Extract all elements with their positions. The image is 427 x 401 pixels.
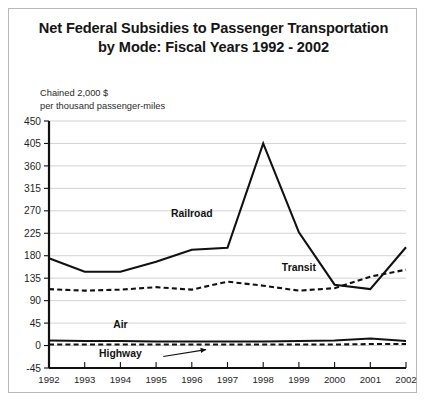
chart-frame: Net Federal Subsidies to Passenger Trans… — [8, 8, 417, 393]
series-label-railroad: Railroad — [171, 208, 213, 219]
series-label-highway: Highway — [99, 348, 142, 359]
x-axis-tick-label: 1994 — [110, 374, 132, 385]
x-axis-tick-label: 1993 — [74, 374, 95, 385]
y-axis-tick-label: 405 — [24, 138, 41, 149]
x-axis-tick-label: 1999 — [288, 374, 309, 385]
highway-arrow — [163, 350, 206, 357]
series-line-highway — [49, 344, 406, 345]
x-axis-tick-label: 1996 — [181, 374, 202, 385]
y-axis-tick-label: 450 — [24, 116, 41, 127]
line-chart-svg: 45040536031527022518013590450-4519921993… — [9, 9, 418, 394]
y-axis-tick-label: 180 — [24, 250, 41, 261]
y-axis-tick-label: 225 — [24, 228, 41, 239]
x-axis-tick-label: 1992 — [38, 374, 59, 385]
series-label-air: Air — [113, 319, 127, 330]
y-axis-tick-label: 135 — [24, 273, 41, 284]
y-axis-tick-label: 90 — [30, 295, 42, 306]
series-line-railroad — [49, 143, 406, 289]
x-axis-tick-label: 2000 — [324, 374, 345, 385]
y-axis-tick-label: -45 — [26, 363, 41, 374]
y-axis-tick-label: 0 — [35, 340, 41, 351]
series-line-air — [49, 339, 406, 342]
x-axis-tick-label: 1995 — [145, 374, 166, 385]
plot-area: 45040536031527022518013590450-4519921993… — [9, 9, 418, 394]
x-axis-tick-label: 1997 — [217, 374, 238, 385]
y-axis-tick-label: 45 — [30, 318, 42, 329]
x-axis-tick-label: 2002 — [395, 374, 416, 385]
series-label-transit: Transit — [282, 262, 317, 273]
y-axis-tick-label: 270 — [24, 205, 41, 216]
x-axis-tick-label: 2001 — [360, 374, 381, 385]
highway-arrow-head — [200, 348, 206, 353]
y-axis-tick-label: 360 — [24, 161, 41, 172]
y-axis-tick-label: 315 — [24, 183, 41, 194]
x-axis-tick-label: 1998 — [253, 374, 274, 385]
